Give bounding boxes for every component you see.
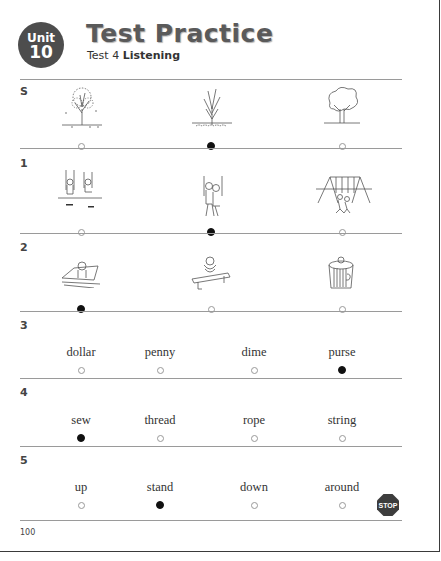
answer-bubble-selected[interactable] [207,228,215,236]
answer-option[interactable] [36,221,126,240]
answer-option[interactable]: purse [297,345,387,378]
answer-option[interactable]: dollar [36,345,126,378]
answer-option[interactable]: stand [115,480,205,513]
answer-option[interactable] [166,298,256,317]
answer-option[interactable]: dime [209,345,299,378]
answer-option[interactable] [297,221,387,240]
stop-label: STOP [379,502,398,509]
answer-option[interactable] [36,298,126,317]
answer-word: down [209,480,299,494]
answer-word: penny [115,345,205,359]
answer-option[interactable] [297,135,387,154]
answer-option[interactable] [166,221,256,240]
swing-set-icon [316,175,372,217]
divider [20,148,402,149]
answer-bubble[interactable] [78,367,85,374]
question-number: 4 [20,386,28,399]
subtitle-prefix: Test 4 [87,49,119,62]
stop-sign-icon: STOP [377,494,399,516]
answer-option[interactable]: down [209,480,299,513]
answer-option[interactable]: around [297,480,387,513]
page-border-right [439,0,440,552]
question-number: 3 [20,319,28,332]
answer-bubble-selected[interactable] [77,434,85,442]
answer-word: thread [115,413,205,427]
question-number: 2 [20,241,28,254]
answer-bubble[interactable] [339,502,346,509]
animal-on-board-icon [60,258,106,288]
two-kids-one-swing-icon [198,176,228,220]
question-number: 1 [20,157,28,170]
divider [20,378,402,379]
answer-bubble[interactable] [157,435,164,442]
answer-option[interactable]: penny [115,345,205,378]
kids-on-swings-icon [58,170,104,216]
unit-number: 10 [18,44,64,60]
divider [20,446,402,447]
answer-bubble[interactable] [78,502,85,509]
answer-option[interactable]: sew [36,413,126,446]
divider [20,233,402,234]
divider [20,79,402,80]
answer-option[interactable] [166,135,256,154]
leafy-tree-icon [320,85,364,129]
tree-losing-leaves-icon [60,83,104,129]
answer-bubble[interactable] [251,435,258,442]
answer-option[interactable]: string [297,413,387,446]
answer-bubble[interactable] [339,435,346,442]
page-number: 100 [20,528,35,537]
answer-word: dollar [36,345,126,359]
answer-option[interactable]: thread [115,413,205,446]
answer-option[interactable]: up [36,480,126,513]
answer-option[interactable] [36,135,126,154]
answer-word: up [36,480,126,494]
answer-bubble[interactable] [251,502,258,509]
animal-on-bench-icon [188,255,234,291]
answer-word: stand [115,480,205,494]
answer-bubble-selected[interactable] [156,501,164,509]
answer-option[interactable]: rope [209,413,299,446]
page-title: Test Practice [86,20,273,48]
answer-bubble[interactable] [251,367,258,374]
page-border-bottom [0,551,440,552]
answer-word: sew [36,413,126,427]
answer-word: around [297,480,387,494]
trash-can-icon [327,256,355,290]
answer-word: rope [209,413,299,427]
page-subtitle: Test 4 Listening [87,50,180,62]
unit-badge: Unit 10 [18,22,64,68]
divider [20,311,402,312]
answer-word: purse [297,345,387,359]
answer-bubble[interactable] [157,367,164,374]
question-number: 5 [20,454,28,467]
answer-bubble-selected[interactable] [338,366,346,374]
answer-option[interactable] [297,298,387,317]
answer-word: dime [209,345,299,359]
question-number: S [20,85,28,98]
divider [20,520,402,521]
bare-tree-icon [190,83,234,129]
subtitle-bold: Listening [123,49,180,62]
answer-word: string [297,413,387,427]
